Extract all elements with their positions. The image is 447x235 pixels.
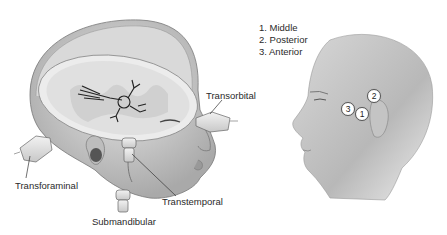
label-submandibular: Submandibular: [92, 216, 156, 227]
marker-posterior: 2: [367, 89, 381, 103]
legend-item-anterior: 3. Anterior: [259, 46, 308, 58]
marker-anterior: 3: [341, 102, 355, 116]
label-transtemporal: Transtemporal: [162, 196, 223, 207]
diagram-artwork: [0, 0, 447, 235]
label-transforaminal: Transforaminal: [15, 180, 78, 191]
marker-middle: 1: [355, 107, 369, 121]
label-transorbital: Transorbital: [206, 90, 256, 101]
window-legend: 1. Middle 2. Posterior 3. Anterior: [259, 22, 308, 58]
legend-item-posterior: 2. Posterior: [259, 34, 308, 46]
submandibular-probe-icon: [116, 190, 130, 212]
legend-item-middle: 1. Middle: [259, 22, 308, 34]
transforaminal-probe-icon: [14, 136, 52, 162]
